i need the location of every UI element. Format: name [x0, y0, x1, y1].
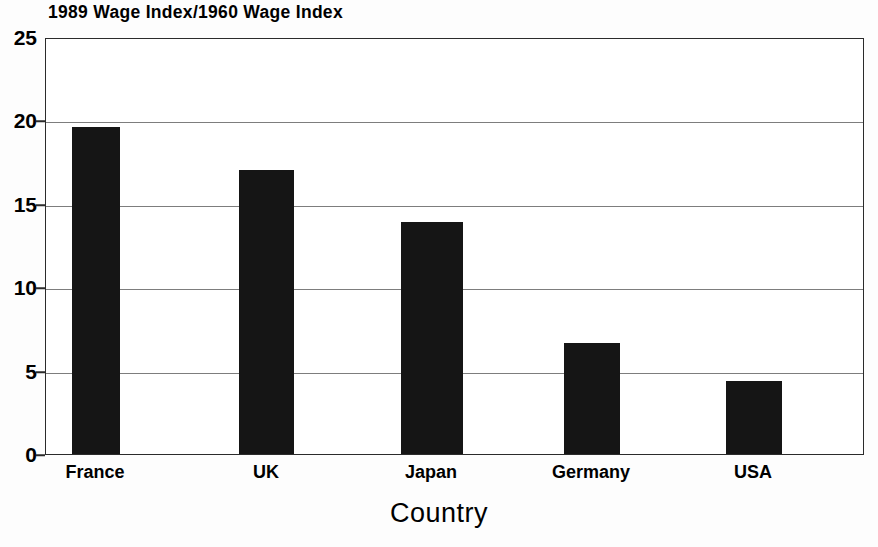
bar-japan — [401, 222, 463, 454]
y-tick-mark-15 — [36, 204, 45, 206]
y-tick-mark-5 — [36, 371, 45, 373]
chart-title: 1989 Wage Index/1960 Wage Index — [48, 2, 343, 23]
category-label-germany: Germany — [552, 462, 630, 483]
y-tick-label-10: 10 — [14, 276, 37, 300]
category-label-usa: USA — [734, 462, 772, 483]
category-label-uk: UK — [253, 462, 279, 483]
category-label-france: France — [65, 462, 124, 483]
y-tick-label-25: 25 — [14, 26, 37, 50]
y-tick-label-15: 15 — [14, 193, 37, 217]
bar-france — [72, 127, 120, 454]
bar-germany — [564, 343, 620, 454]
category-label-japan: Japan — [405, 462, 457, 483]
y-tick-mark-10 — [36, 287, 45, 289]
gridline-20 — [46, 122, 863, 123]
gridline-15 — [46, 206, 863, 207]
y-tick-mark-20 — [36, 120, 45, 122]
y-tick-label-20: 20 — [14, 109, 37, 133]
y-axis: 0 5 10 15 20 25 — [0, 0, 45, 547]
category-labels: France UK Japan Germany USA — [45, 462, 864, 488]
x-axis-title: Country — [0, 498, 878, 529]
bar-uk — [239, 170, 294, 454]
plot-area — [45, 38, 864, 455]
bar-usa — [726, 381, 782, 454]
y-tick-mark-0 — [36, 454, 45, 456]
bar-chart: 1989 Wage Index/1960 Wage Index 0 5 10 1… — [0, 0, 878, 547]
